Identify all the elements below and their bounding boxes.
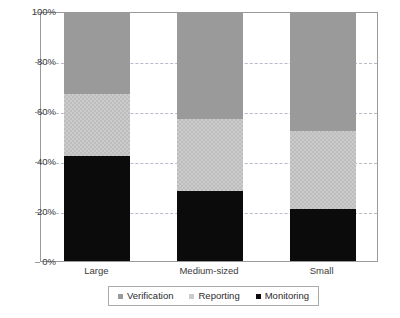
y-axis-tick-mark (35, 212, 40, 213)
legend-label-monitoring: Monitoring (265, 291, 309, 301)
y-axis-tick-label: 40% (4, 157, 56, 167)
legend-swatch-verification (118, 294, 123, 299)
y-axis-tick-mark (35, 262, 40, 263)
bar-stack[interactable] (290, 12, 356, 261)
chart-legend: Verification Reporting Monitoring (108, 286, 319, 306)
plot-area (40, 12, 378, 262)
bar-segment-monitoring[interactable] (290, 209, 356, 262)
x-axis-tick-label: Medium-sized (179, 266, 238, 276)
bar-segment-reporting[interactable] (177, 119, 243, 192)
y-axis-tick-label: 60% (4, 107, 56, 117)
bar-segment-verification[interactable] (177, 12, 243, 119)
bar-stack[interactable] (64, 12, 130, 261)
bar-segment-verification[interactable] (64, 12, 130, 94)
legend-swatch-reporting (189, 294, 194, 299)
x-axis-tick-label: Large (84, 266, 108, 276)
legend-entry-verification[interactable]: Verification (118, 291, 173, 301)
legend-label-reporting: Reporting (198, 291, 239, 301)
y-axis-tick-label: 0% (4, 257, 56, 267)
legend-label-verification: Verification (127, 291, 173, 301)
y-axis-tick-label: 100% (4, 7, 56, 17)
y-axis-tick-mark (35, 62, 40, 63)
stacked-bar-chart: 100%80%60%40%20%0% LargeMedium-sizedSmal… (0, 0, 400, 318)
bar-segment-reporting[interactable] (64, 94, 130, 157)
bar-segment-monitoring[interactable] (177, 191, 243, 261)
y-axis-tick-label: 20% (4, 207, 56, 217)
bar-stack[interactable] (177, 12, 243, 261)
y-axis-tick-mark (35, 112, 40, 113)
legend-entry-reporting[interactable]: Reporting (189, 291, 239, 301)
x-axis-tick-label: Small (310, 266, 334, 276)
bar-segment-reporting[interactable] (290, 131, 356, 209)
bar-segment-verification[interactable] (290, 12, 356, 131)
legend-entry-monitoring[interactable]: Monitoring (256, 291, 309, 301)
y-axis-tick-mark (35, 162, 40, 163)
legend-swatch-monitoring (256, 294, 261, 299)
y-axis-tick-mark (35, 12, 40, 13)
y-axis-tick-label: 80% (4, 57, 56, 67)
bar-segment-monitoring[interactable] (64, 156, 130, 261)
